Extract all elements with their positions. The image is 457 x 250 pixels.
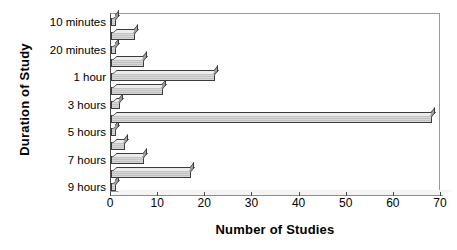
x-axis-tick-label: 40 <box>279 197 319 210</box>
plot-area <box>110 13 440 192</box>
y-axis-tick-label: 5 hours <box>28 127 106 139</box>
x-axis-title: Number of Studies <box>110 222 440 237</box>
x-axis-tick-label: 70 <box>420 197 457 210</box>
bar <box>111 128 116 136</box>
x-axis-tick-label: 0 <box>90 197 130 210</box>
y-axis-tick-label: 3 hours <box>28 100 106 112</box>
x-axis-tick-label: 30 <box>231 197 271 210</box>
x-axis-tick-label: 60 <box>373 197 413 210</box>
bar <box>111 170 191 178</box>
y-axis-tick-label: 7 hours <box>28 155 106 167</box>
y-axis-tick-label: 20 minutes <box>28 45 106 57</box>
y-axis-tick-label: 9 hours <box>28 182 106 194</box>
bar <box>111 101 120 109</box>
bar <box>111 18 116 26</box>
bar <box>111 32 135 40</box>
x-axis-tick-label: 20 <box>184 197 224 210</box>
bar <box>111 142 125 150</box>
y-axis-tick-labels: 10 minutes20 minutes1 hour3 hours5 hours… <box>28 14 106 192</box>
bar <box>111 87 163 95</box>
bar <box>111 46 116 54</box>
bar <box>111 156 144 164</box>
x-axis-tick-label: 10 <box>137 197 177 210</box>
bar <box>111 115 432 123</box>
bar <box>111 183 116 191</box>
bar <box>111 73 215 81</box>
y-axis-tick-label: 10 minutes <box>28 17 106 29</box>
x-axis-tick-label: 50 <box>326 197 366 210</box>
x-axis-ticks: 010203040506070 <box>110 192 440 220</box>
bar-chart-figure: Duration of Study 10 minutes20 minutes1 … <box>0 0 457 250</box>
y-axis-tick-label: 1 hour <box>28 72 106 84</box>
bar <box>111 59 144 67</box>
